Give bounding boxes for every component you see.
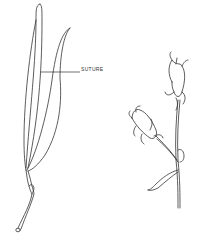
suture-label: SUTURE [81, 66, 103, 72]
botanical-figure: SUTURE [0, 0, 200, 245]
pod-drawing [0, 0, 200, 245]
